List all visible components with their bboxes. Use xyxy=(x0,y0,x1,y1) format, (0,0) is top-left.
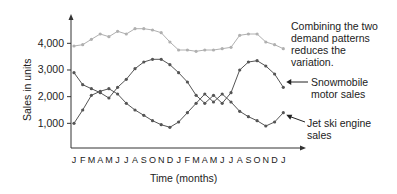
x-tick-label: F xyxy=(185,155,191,165)
annotation-line: variation. xyxy=(291,56,378,68)
data-point xyxy=(107,35,110,38)
chart-axes: 1,0002,0003,0004,000JFMAMJJASONDJFMAMJJA… xyxy=(38,14,306,165)
data-point xyxy=(177,48,180,51)
annotation-line: Snowmobile xyxy=(311,76,368,88)
data-point xyxy=(116,86,119,89)
series-line xyxy=(74,29,283,52)
data-point xyxy=(247,60,250,63)
y-tick-label: 4,000 xyxy=(38,37,64,49)
x-tick-label: O xyxy=(149,155,156,165)
data-point xyxy=(125,78,128,81)
data-point xyxy=(116,30,119,33)
arrow-head-icon xyxy=(286,79,291,85)
x-tick-label: A xyxy=(237,155,243,165)
data-point xyxy=(247,32,250,35)
data-point xyxy=(195,50,198,53)
x-tick-label: J xyxy=(124,155,129,165)
data-point xyxy=(133,67,136,70)
data-point xyxy=(107,96,110,99)
data-point xyxy=(221,47,224,50)
x-tick-label: S xyxy=(141,155,147,165)
data-point xyxy=(99,32,102,35)
data-point xyxy=(142,60,145,63)
data-point xyxy=(238,34,241,37)
data-point xyxy=(90,94,93,97)
x-tick-label: A xyxy=(97,155,103,165)
x-tick-label: S xyxy=(245,155,251,165)
series-combined-total xyxy=(72,27,285,53)
y-tick-label: 3,000 xyxy=(38,63,64,75)
data-point xyxy=(151,119,154,122)
data-point xyxy=(195,94,198,97)
data-point xyxy=(264,64,267,67)
data-point xyxy=(212,48,215,51)
x-axis-label: Time (months) xyxy=(150,172,217,184)
x-tick-label: N xyxy=(263,155,270,165)
series-snowmobile-motor-sales xyxy=(72,58,285,105)
x-tick-label: M xyxy=(192,155,200,165)
data-point xyxy=(125,32,128,35)
data-point xyxy=(264,124,267,127)
x-tick-label: F xyxy=(80,155,86,165)
data-point xyxy=(133,27,136,30)
data-point xyxy=(168,63,171,66)
data-point xyxy=(273,120,276,123)
x-axis-arrow-icon xyxy=(300,146,306,151)
data-point xyxy=(203,102,206,105)
x-tick-label: J xyxy=(176,155,181,165)
data-point xyxy=(142,114,145,117)
annotation-arrows xyxy=(286,79,308,122)
annotation-line: sales xyxy=(307,129,371,141)
x-tick-label: J xyxy=(72,155,77,165)
data-point xyxy=(256,59,259,62)
x-tick-label: A xyxy=(132,155,138,165)
data-point xyxy=(99,90,102,93)
data-point xyxy=(229,100,232,103)
x-tick-label: D xyxy=(167,155,174,165)
data-point xyxy=(203,92,206,95)
x-tick-label: M xyxy=(105,155,113,165)
y-axis-arrow-icon xyxy=(69,14,74,20)
annotation-line: Jet ski engine xyxy=(307,117,371,129)
annotation-combined: Combining the two demand patterns reduce… xyxy=(291,20,378,68)
data-point xyxy=(229,91,232,94)
data-point xyxy=(212,100,215,103)
x-tick-label: A xyxy=(202,155,208,165)
data-point xyxy=(160,58,163,61)
annotation-line: Combining the two xyxy=(291,20,378,32)
data-point xyxy=(273,43,276,46)
data-point xyxy=(168,126,171,129)
data-point xyxy=(282,111,285,114)
data-point xyxy=(151,28,154,31)
x-tick-label: D xyxy=(271,155,278,165)
data-point xyxy=(90,38,93,41)
x-tick-label: J xyxy=(115,155,120,165)
data-point xyxy=(256,119,259,122)
data-point xyxy=(81,43,84,46)
data-point xyxy=(229,46,232,49)
data-point xyxy=(142,27,145,30)
data-point xyxy=(177,71,180,74)
annotation-line: demand patterns xyxy=(291,32,378,44)
annotation-line: motor sales xyxy=(311,88,368,100)
data-point xyxy=(282,86,285,89)
data-point xyxy=(264,40,267,43)
data-point xyxy=(125,102,128,105)
annotation-snowmobile: Snowmobile motor sales xyxy=(311,76,368,100)
data-point xyxy=(195,102,198,105)
data-point xyxy=(212,94,215,97)
data-point xyxy=(160,31,163,34)
series-line xyxy=(74,59,283,103)
data-point xyxy=(133,108,136,111)
data-point xyxy=(221,92,224,95)
data-point xyxy=(72,71,75,74)
data-point xyxy=(151,58,154,61)
y-axis-label: Sales in units xyxy=(21,59,33,121)
data-point xyxy=(186,111,189,114)
y-tick-label: 1,000 xyxy=(38,117,64,129)
x-tick-label: O xyxy=(254,155,261,165)
x-tick-label: M xyxy=(88,155,96,165)
x-tick-label: N xyxy=(158,155,165,165)
data-point xyxy=(107,87,110,90)
data-point xyxy=(72,44,75,47)
